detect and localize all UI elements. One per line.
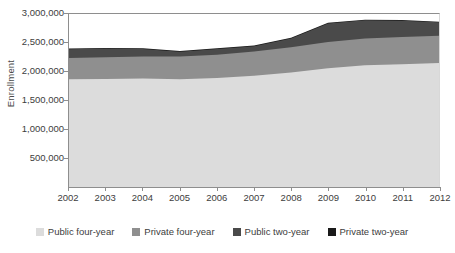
y-tick-label: 2,500,000 [0, 37, 64, 47]
legend-label: Private four-year [144, 226, 214, 237]
x-tick-mark [217, 187, 218, 191]
legend-swatch-icon [36, 228, 44, 236]
x-tick-mark [142, 187, 143, 191]
y-tick-mark [64, 158, 68, 159]
x-tick-mark [180, 187, 181, 191]
legend-swatch-icon [328, 228, 336, 236]
x-tick-mark [291, 187, 292, 191]
y-tick-label: 1,500,000 [0, 95, 64, 105]
y-tick-label: 3,000,000 [0, 8, 64, 18]
x-tick-mark [254, 187, 255, 191]
legend-label: Public two-year [245, 226, 310, 237]
y-tick-mark [64, 42, 68, 43]
y-tick-mark [64, 71, 68, 72]
x-tick-mark [440, 187, 441, 191]
y-tick-mark [64, 129, 68, 130]
x-tick-mark [403, 187, 404, 191]
y-tick-label: 500,000 [0, 153, 64, 163]
y-tick-label: 2,000,000 [0, 66, 64, 76]
legend-swatch-icon [132, 228, 140, 236]
y-tick-mark [64, 100, 68, 101]
legend-label: Public four-year [48, 226, 115, 237]
legend-item[interactable]: Public two-year [233, 226, 310, 237]
x-tick-mark [68, 187, 69, 191]
legend-item[interactable]: Public four-year [36, 226, 115, 237]
x-tick-mark [366, 187, 367, 191]
plot-area [68, 13, 440, 187]
x-tick-mark [328, 187, 329, 191]
area-series-svg [69, 14, 439, 187]
chart-legend: Public four-yearPrivate four-yearPublic … [0, 226, 444, 237]
legend-swatch-icon [233, 228, 241, 236]
y-tick-label: 1,000,000 [0, 124, 64, 134]
x-tick-mark [105, 187, 106, 191]
y-tick-mark [64, 13, 68, 14]
area-band-public-four-year [69, 63, 439, 187]
x-tick-label: 2012 [417, 192, 455, 203]
y-axis-tick-labels: 3,000,0002,500,0002,000,0001,500,0001,00… [0, 0, 64, 253]
legend-item[interactable]: Private four-year [132, 226, 214, 237]
legend-label: Private two-year [340, 226, 409, 237]
legend-item[interactable]: Private two-year [328, 226, 409, 237]
